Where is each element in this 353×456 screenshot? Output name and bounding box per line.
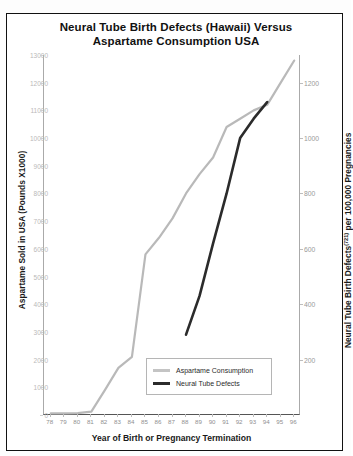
x-axis-tick-mark <box>212 414 213 417</box>
x-axis-tick-mark <box>293 414 294 417</box>
x-axis-tick-label: 86 <box>155 418 162 425</box>
y-axis-left-tick-mark <box>40 221 43 222</box>
y-axis-left-tick-mark <box>40 83 43 84</box>
y-axis-right-tick-mark <box>300 304 303 305</box>
y-axis-right-tick-label: 200 <box>304 356 315 363</box>
x-axis-tick-label: 80 <box>73 418 80 425</box>
y-axis-left-tick-label: 13000 <box>30 52 48 59</box>
y-axis-left-tick-mark <box>40 415 43 416</box>
legend-item-neural-tube: Neural Tube Defects <box>153 377 265 390</box>
x-axis-tick-label: 92 <box>236 418 243 425</box>
y-axis-right-tick-label: 800 <box>304 190 315 197</box>
x-axis-tick-label: 81 <box>87 418 94 425</box>
x-axis-tick-mark <box>253 414 254 417</box>
x-axis-tick-mark <box>144 414 145 417</box>
x-axis-tick-mark <box>90 414 91 417</box>
legend-swatch-neural-tube <box>153 382 170 386</box>
y-axis-right-tick-mark <box>300 193 303 194</box>
y-axis-left-tick-mark <box>40 138 43 139</box>
x-axis-tick-label: 91 <box>222 418 229 425</box>
x-axis-tick-label: 88 <box>182 418 189 425</box>
y-axis-right-tick-mark <box>300 83 303 84</box>
y-axis-right-tick-mark <box>300 249 303 250</box>
x-axis-tick-label: 79 <box>60 418 67 425</box>
y-axis-left-tick-mark <box>40 304 43 305</box>
x-axis-tick-label: 96 <box>290 418 297 425</box>
x-axis-tick-label: 83 <box>114 418 121 425</box>
x-axis-tick-label: 87 <box>168 418 175 425</box>
y-axis-right-title-superscript: (721) <box>343 233 349 246</box>
y-axis-right-title-tail: per 100,000 Pregnancies <box>343 133 353 233</box>
y-axis-left-tick-mark <box>40 55 43 56</box>
x-axis-tick-mark <box>239 414 240 417</box>
legend-label-neural-tube: Neural Tube Defects <box>176 380 240 387</box>
y-axis-right-tick-label: 1200 <box>304 79 319 86</box>
x-axis-tick-mark <box>172 414 173 417</box>
legend-item-aspartame: Aspartame Consumption <box>153 364 265 377</box>
y-axis-right-tick-mark <box>300 138 303 139</box>
x-axis-tick-mark <box>117 414 118 417</box>
y-axis-right-tick-mark <box>300 360 303 361</box>
y-axis-right-tick-label: 1000 <box>304 135 319 142</box>
x-axis-tick-mark <box>158 414 159 417</box>
y-axis-left-tick-label: 12000 <box>30 79 48 86</box>
y-axis-right-tick-label: 600 <box>304 245 315 252</box>
x-axis-tick-mark <box>104 414 105 417</box>
legend-label-aspartame: Aspartame Consumption <box>176 367 253 374</box>
x-axis-tick-mark <box>50 414 51 417</box>
x-axis-tick-mark <box>266 414 267 417</box>
y-axis-right-tick-label: 400 <box>304 301 315 308</box>
x-axis-tick-label: 78 <box>46 418 53 425</box>
y-axis-left-tick-label: 10000 <box>30 135 48 142</box>
x-axis-tick-label: 95 <box>276 418 283 425</box>
y-axis-left-tick-mark <box>40 360 43 361</box>
y-axis-right-title-main: Neural Tube Birth Defects <box>343 246 353 348</box>
x-axis-tick-mark <box>131 414 132 417</box>
y-axis-left-tick-mark <box>40 193 43 194</box>
chart-title: Neural Tube Birth Defects (Hawaii) Versu… <box>26 20 326 48</box>
x-axis-tick-mark <box>199 414 200 417</box>
y-axis-left-tick-mark <box>40 277 43 278</box>
x-axis-tick-mark <box>63 414 64 417</box>
legend-swatch-aspartame <box>153 369 170 372</box>
y-axis-left-tick-mark <box>40 387 43 388</box>
y-axis-left-tick-mark <box>40 166 43 167</box>
x-axis-tick-label: 82 <box>100 418 107 425</box>
x-axis-tick-label: 85 <box>141 418 148 425</box>
y-axis-right-title: Neural Tube Birth Defects(721) per 100,0… <box>343 125 353 355</box>
x-axis-tick-label: 90 <box>209 418 216 425</box>
chart-title-line-2: Aspartame Consumption USA <box>26 34 326 48</box>
y-axis-left-tick-mark <box>40 249 43 250</box>
x-axis-tick-mark <box>185 414 186 417</box>
x-axis-tick-label: 89 <box>195 418 202 425</box>
x-axis-tick-label: 93 <box>249 418 256 425</box>
x-axis-title: Year of Birth or Pregnancy Termination <box>43 433 300 443</box>
y-axis-left-tick-mark <box>40 110 43 111</box>
y-axis-left-title: Aspartame Sold in USA (Pounds X1000) <box>17 115 27 345</box>
y-axis-left-tick-mark <box>40 332 43 333</box>
x-axis-tick-mark <box>226 414 227 417</box>
series-line-neural-tube <box>186 102 267 335</box>
x-axis-tick-mark <box>280 414 281 417</box>
chart-title-line-1: Neural Tube Birth Defects (Hawaii) Versu… <box>26 20 326 34</box>
x-axis-tick-label: 84 <box>127 418 134 425</box>
x-axis-tick-mark <box>77 414 78 417</box>
x-axis-tick-label: 94 <box>263 418 270 425</box>
chart-legend: Aspartame Consumption Neural Tube Defect… <box>146 358 272 395</box>
